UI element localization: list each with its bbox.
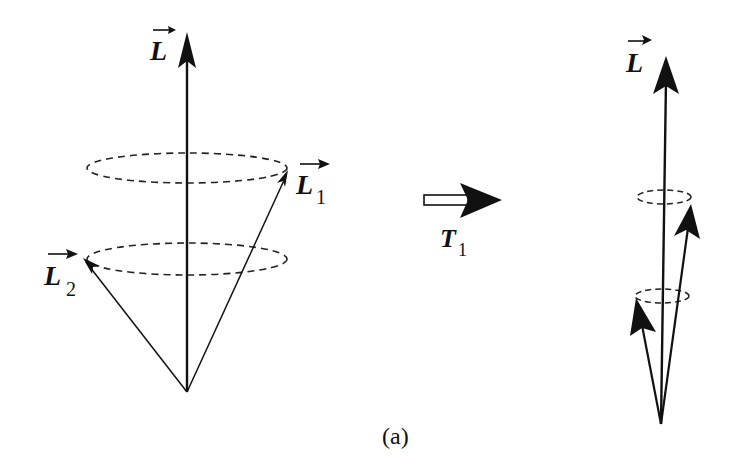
left-panel: L L 1 L 2 bbox=[43, 26, 330, 392]
transition-arrow: T 1 bbox=[424, 183, 502, 260]
vector-l2-aligned bbox=[641, 320, 661, 424]
svg-text:L: L bbox=[625, 47, 643, 78]
total-angular-momentum-vector-right bbox=[661, 80, 666, 424]
label-l-right: L bbox=[625, 35, 652, 78]
svg-text:T: T bbox=[440, 224, 457, 253]
label-l1: L 1 bbox=[295, 159, 330, 208]
svg-text:2: 2 bbox=[66, 278, 76, 300]
right-panel: L bbox=[625, 35, 700, 424]
arrowhead-icon bbox=[83, 258, 100, 274]
precession-diagram: L L 1 L 2 T 1 bbox=[0, 0, 742, 472]
vector-l1-aligned bbox=[661, 228, 688, 424]
vector-l2 bbox=[86, 262, 187, 392]
vector-l1 bbox=[187, 176, 286, 392]
svg-text:1: 1 bbox=[316, 186, 326, 208]
svg-text:1: 1 bbox=[458, 240, 467, 260]
figure-caption: (a) bbox=[382, 423, 409, 449]
label-l: L bbox=[149, 26, 176, 66]
svg-text:L: L bbox=[43, 260, 61, 291]
hollow-arrow-shaft bbox=[424, 195, 468, 205]
label-l2: L 2 bbox=[43, 249, 78, 300]
svg-text:L: L bbox=[149, 35, 167, 66]
svg-text:L: L bbox=[295, 169, 313, 200]
